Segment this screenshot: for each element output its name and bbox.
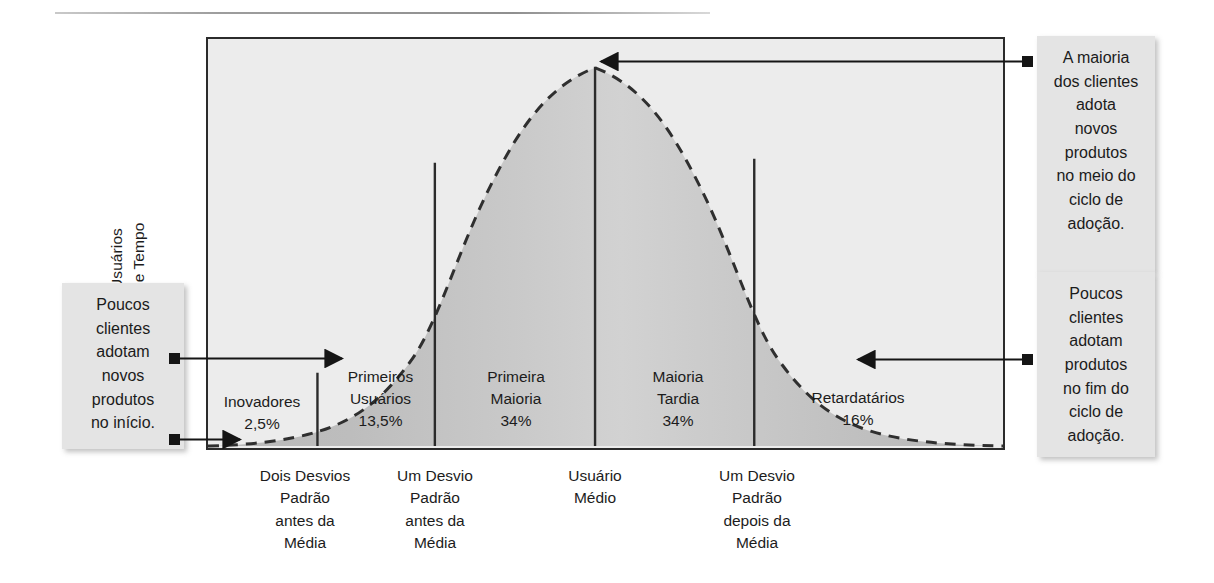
callout-middle-adoption: A maioria dos clientes adota novos produ…	[1037, 36, 1155, 272]
figure-canvas: Número de Usuários por Período de Tempo	[0, 0, 1214, 583]
callout-early-adoption: Poucos clientes adotam novos produtos no…	[62, 283, 184, 449]
segment-label-primeira-maioria: Primeira Maioria 34%	[456, 366, 576, 432]
chart-plot-area: Inovadores 2,5% Primeiros Usuários 13,5%…	[206, 37, 1005, 450]
segment-label-retardatarios: Retardatários 16%	[773, 387, 943, 431]
xtick-one-sd-before: Um Desvio Padrão antes da Média	[370, 465, 500, 555]
xtick-two-sd-before: Dois Desvios Padrão antes da Média	[240, 465, 370, 555]
top-divider-rule	[55, 12, 710, 14]
xtick-mean-user: Usuário Médio	[535, 465, 655, 510]
segment-label-inovadores: Inovadores 2,5%	[206, 391, 322, 435]
xtick-one-sd-after: Um Desvio Padrão depois da Média	[692, 465, 822, 555]
callout-late-adoption: Poucos clientes adotam produtos no fim d…	[1037, 272, 1155, 457]
connector-node-bottom-right	[1022, 354, 1033, 365]
connector-node-top-right	[1022, 56, 1033, 67]
segment-label-primeiros-usuarios: Primeiros Usuários 13,5%	[323, 366, 438, 432]
segment-label-maioria-tardia: Maioria Tardia 34%	[618, 366, 738, 432]
